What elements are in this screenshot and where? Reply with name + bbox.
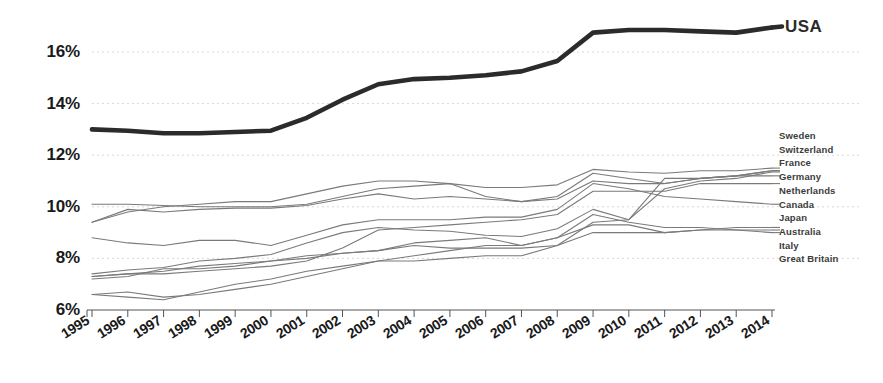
y-axis-tick-label: 10% [18, 197, 80, 217]
series-line [92, 215, 772, 298]
y-axis-tick-label: 16% [18, 42, 80, 62]
legend-item-japan: Japan [779, 212, 807, 223]
legend-item-australia: Australia [779, 226, 821, 237]
legend-item-great-britain: Great Britain [779, 253, 839, 264]
legend-item-usa: USA [785, 17, 822, 37]
legend-item-canada: Canada [779, 199, 814, 210]
chart-container: 6%8%10%12%14%16% 19951996199719981999200… [0, 0, 883, 383]
series-line [92, 184, 772, 246]
series-line-highlight [92, 27, 772, 133]
legend-item-netherlands: Netherlands [779, 185, 836, 196]
series-line [92, 173, 772, 222]
y-axis-tick-label: 14% [18, 94, 80, 114]
series-leader-line-highlight [772, 26, 782, 27]
series-line [92, 225, 772, 279]
legend-item-germany: Germany [779, 171, 821, 182]
legend-item-italy: Italy [779, 240, 799, 251]
legend-item-sweden: Sweden [779, 130, 816, 141]
y-axis-tick-label: 8% [18, 248, 80, 268]
legend-item-france: France [779, 157, 811, 168]
legend-item-switzerland: Switzerland [779, 144, 833, 155]
y-axis-tick-label: 6% [18, 300, 80, 320]
y-axis-tick-label: 12% [18, 145, 80, 165]
